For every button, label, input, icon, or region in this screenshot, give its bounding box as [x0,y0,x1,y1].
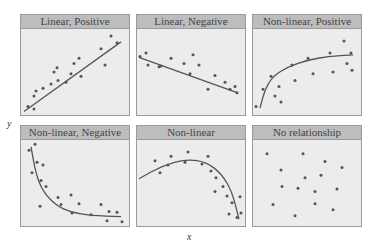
panel-title: Non-linear [137,126,245,140]
scatter-plot [21,29,129,115]
data-point [207,155,210,158]
data-point [70,194,73,197]
data-point [266,152,269,155]
data-point [116,41,119,44]
trend-line [24,42,121,112]
data-point [104,64,107,67]
data-point [210,169,213,172]
data-point [236,91,239,94]
trend-line [31,147,121,217]
data-point [34,143,37,146]
data-point [351,69,354,72]
data-point [222,185,225,188]
data-point [304,176,307,179]
data-point [228,212,231,215]
data-point [45,185,48,188]
data-point [121,220,124,223]
data-point [42,163,45,166]
data-point [224,81,227,84]
data-point [207,88,210,91]
data-point [36,161,39,164]
data-point [201,163,204,166]
data-point [226,194,229,197]
data-point [116,211,119,214]
data-point [234,85,237,88]
data-point [154,159,157,162]
data-point [80,75,83,78]
data-point [60,203,63,206]
data-point [270,75,273,78]
data-point [302,152,305,155]
data-point [184,161,187,164]
trend-line [260,55,353,108]
data-point [27,105,30,108]
data-point [239,195,242,198]
panel-non-linear-positive: Non-linear, Positive [252,14,362,116]
panel-title: Linear, Negative [137,15,245,29]
data-point [350,52,353,55]
data-point [56,66,59,69]
data-point [57,79,60,82]
data-point [215,176,218,179]
trend-line [139,57,237,92]
data-point [78,202,81,205]
data-point [183,62,186,65]
y-axis-label: y [7,118,11,129]
data-point [189,72,192,75]
data-point [110,34,113,37]
panel-linear-positive: Linear, Positive [20,14,130,116]
data-point [42,87,45,90]
data-point [106,219,109,222]
data-point [236,216,239,219]
data-point [312,72,315,75]
data-point [346,62,349,65]
panel-title: No relationship [253,126,361,140]
data-point [159,171,162,174]
data-point [229,88,232,91]
data-point [332,71,335,74]
data-point [145,52,148,55]
panel-linear-negative: Linear, Negative [136,14,246,116]
data-point [262,88,265,91]
data-point [71,212,74,215]
data-point [314,202,317,205]
data-point [100,203,103,206]
data-point [343,40,346,43]
scatter-plot [253,140,361,226]
data-point [100,47,103,50]
data-point [40,179,43,182]
data-point [280,169,283,172]
data-point [192,53,195,56]
data-point [167,163,170,166]
data-point [53,71,56,74]
panel-title: Non-linear, Positive [253,15,361,29]
trend-line [139,160,239,219]
data-point [281,185,284,188]
panel-non-linear-negative: Non-linear, Negative [20,125,130,227]
data-point [307,57,310,60]
data-point [231,201,234,204]
data-point [240,212,243,215]
data-point [324,160,327,163]
data-point [108,210,111,213]
panel-title: Non-linear, Negative [21,126,129,140]
data-point [314,190,317,193]
data-point [31,171,34,174]
data-point [278,85,281,88]
data-point [320,174,323,177]
data-point [160,64,163,67]
data-point [39,205,42,208]
data-point [78,57,81,60]
data-point [198,64,201,67]
data-point [274,95,277,98]
data-point [272,203,275,206]
data-point [33,107,36,110]
data-point [336,188,339,191]
panel-no-relationship: No relationship [252,125,362,227]
scatter-plot [137,140,245,226]
scatter-plot [253,29,361,115]
scatter-plot [21,140,129,226]
data-point [214,190,217,193]
scatter-plot [137,29,245,115]
data-point [170,57,173,60]
